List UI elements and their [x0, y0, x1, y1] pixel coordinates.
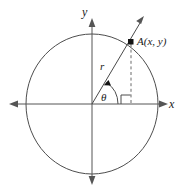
right-angle-marker [121, 95, 131, 104]
point-a-marker [128, 39, 134, 45]
y-axis-down-arrow-icon [89, 176, 96, 185]
point-a-label: A(x, y) [136, 35, 167, 48]
y-axis-label: y [81, 5, 88, 19]
angle-label: θ [101, 91, 107, 103]
radius-label: r [100, 60, 105, 72]
terminal-ray-arrow-icon [136, 16, 144, 24]
x-axis-label: x [168, 97, 175, 111]
x-axis-left-arrow-icon [9, 101, 18, 108]
unit-circle-diagram: x y r θ A(x, y) [0, 0, 193, 195]
angle-arc [107, 83, 119, 105]
x-axis-right-arrow-icon [159, 101, 168, 108]
trigonometry-figure: x y r θ A(x, y) [0, 0, 193, 195]
y-axis-up-arrow-icon [89, 18, 96, 27]
